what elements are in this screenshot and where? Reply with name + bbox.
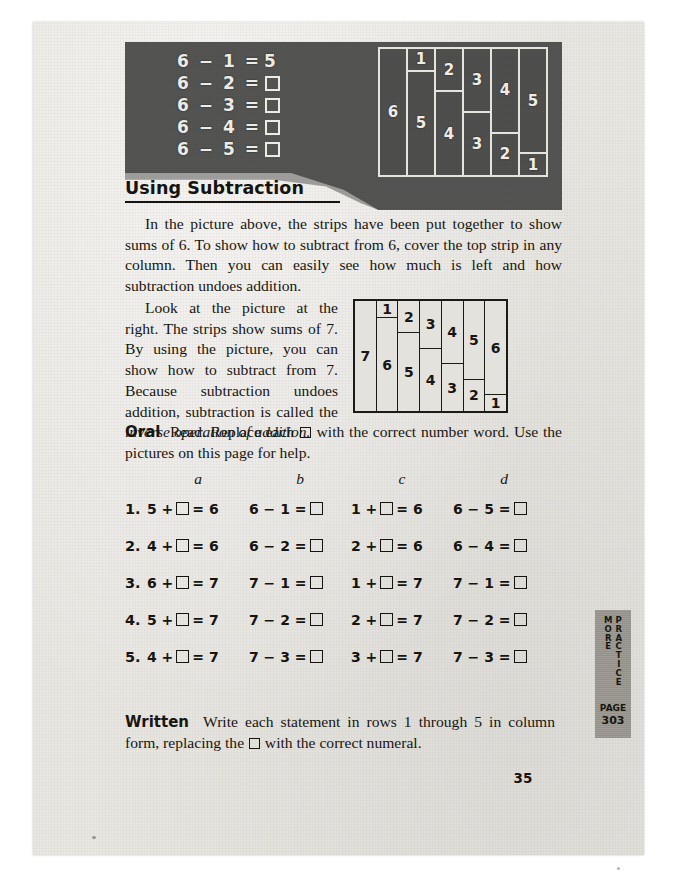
exercise-item: 7 − 1 = (453, 575, 555, 591)
answer-box-icon[interactable] (310, 502, 323, 515)
exercise-column-headers: abcd (125, 470, 557, 490)
answer-box-icon[interactable] (380, 650, 393, 663)
answer-box-icon[interactable] (310, 539, 323, 552)
oral-text-before: Read. Replace each (170, 423, 299, 440)
strip-cell: 2 (464, 380, 485, 411)
strip-cell: 1 (520, 154, 546, 175)
exercise-expression-left: 2 + (351, 612, 377, 628)
written-text-after: with the correct numeral. (261, 734, 422, 751)
chalkboard-equation: 6 − 1 =5 (177, 50, 327, 72)
strip-cell: 5 (398, 333, 419, 411)
answer-box-icon[interactable] (176, 650, 189, 663)
chalkboard-equation: 6 − 4 = (177, 116, 327, 138)
answer-box-icon[interactable] (310, 613, 323, 626)
exercise-expression-left: 5 + (147, 612, 173, 628)
answer-box-icon[interactable] (514, 576, 527, 589)
side-tab-page-label: PAGE (600, 703, 626, 713)
strip-cell: 3 (442, 364, 463, 411)
empty-square-icon (265, 120, 280, 135)
exercise-item: 7 − 2 = (453, 612, 555, 628)
written-label: Written (125, 713, 189, 731)
answer-box-icon[interactable] (176, 502, 189, 515)
chalkboard-equation: 6 − 5 = (177, 138, 327, 160)
exercise-row-number: 5. (125, 649, 147, 665)
strip-column: 15 (408, 49, 436, 175)
answer-box-icon[interactable] (310, 650, 323, 663)
strip-cell: 1 (377, 301, 398, 318)
exercise-expression-left: 6 − 4 = (453, 538, 511, 554)
exercise-item: 6 += 7 (147, 575, 249, 591)
strip-cell: 6 (377, 318, 398, 411)
exercise-item: 4 += 7 (147, 649, 249, 665)
strip-column: 24 (436, 49, 464, 175)
strip-cell: 2 (492, 134, 518, 175)
empty-square-icon (265, 76, 280, 91)
answer-box-icon[interactable] (176, 576, 189, 589)
page-content: 6 − 1 =56 − 2 =6 − 3 =6 − 4 =6 − 5 = 615… (33, 22, 644, 855)
exercise-grid: abcd 1.5 += 66 − 1 =1 += 66 − 5 =2.4 += … (125, 470, 557, 675)
exercise-expression-left: 6 − 5 = (453, 501, 511, 517)
exercise-column-header: c (351, 470, 453, 490)
answer-box-icon[interactable] (380, 576, 393, 589)
strip-cell: 2 (398, 301, 419, 333)
side-tab-word-more: MORE (604, 616, 612, 702)
answer-box-icon[interactable] (514, 613, 527, 626)
strip-cell: 3 (464, 113, 490, 175)
strip-cell: 4 (436, 92, 462, 175)
exercise-item: 5 += 6 (147, 501, 249, 517)
strip-cell: 7 (355, 301, 376, 411)
exercise-expression-left: 1 + (351, 501, 377, 517)
exercise-expression-left: 5 + (147, 501, 173, 517)
answer-box-icon[interactable] (514, 539, 527, 552)
exercise-expression-left: 4 + (147, 538, 173, 554)
exercise-item: 6 − 4 = (453, 538, 555, 554)
strip-cell: 5 (520, 49, 546, 154)
strip-cell: 3 (420, 301, 441, 349)
exercise-row: 2.4 += 66 − 2 =2 += 66 − 4 = (125, 527, 557, 564)
exercise-item: 4 += 6 (147, 538, 249, 554)
paragraph-sums-of-7-text: Look at the picture at the right. The st… (125, 299, 338, 420)
exercise-row: 1.5 += 66 − 1 =1 += 66 − 5 = (125, 490, 557, 527)
exercise-item: 5 += 7 (147, 612, 249, 628)
chalkboard-equation-list: 6 − 1 =56 − 2 =6 − 3 =6 − 4 =6 − 5 = (177, 50, 327, 160)
answer-box-icon[interactable] (380, 539, 393, 552)
exercise-expression-left: 7 − 2 = (249, 612, 307, 628)
exercise-expression-right: = 7 (192, 575, 218, 591)
strip-cell: 2 (436, 49, 462, 92)
answer-box-icon[interactable] (380, 502, 393, 515)
chalk-equation-expression: 6 − 1 = (177, 51, 261, 71)
chalkboard-equation: 6 − 3 = (177, 94, 327, 116)
answer-box-icon[interactable] (380, 613, 393, 626)
oral-instruction: Oral Read. Replace each with the correct… (125, 422, 562, 464)
answer-box-icon[interactable] (176, 539, 189, 552)
scan-speck (92, 836, 96, 839)
answer-box-icon[interactable] (310, 576, 323, 589)
exercise-expression-right: = 7 (192, 649, 218, 665)
exercise-row: 5.4 += 77 − 3 =3 += 77 − 3 = (125, 638, 557, 675)
empty-square-icon (249, 738, 260, 749)
exercise-expression-left: 7 − 1 = (249, 575, 307, 591)
strip-cell: 5 (408, 72, 434, 175)
paragraph-intro-text: In the picture above, the strips have be… (125, 215, 562, 294)
exercise-item: 2 += 7 (351, 612, 453, 628)
strip-column: 52 (464, 301, 486, 411)
strip-cell: 6 (485, 301, 506, 395)
exercise-column-header: a (147, 470, 249, 490)
strip-column: 25 (398, 301, 420, 411)
exercise-item: 3 += 7 (351, 649, 453, 665)
exercise-item: 6 − 2 = (249, 538, 351, 554)
side-tab-vertical-words: MOREPRACTICE (604, 610, 622, 702)
exercise-column-header: d (453, 470, 555, 490)
strip-column: 51 (520, 49, 546, 175)
oral-label: Oral (125, 423, 160, 441)
strip-column: 61 (485, 301, 506, 411)
exercise-expression-left: 1 + (351, 575, 377, 591)
exercise-expression-left: 3 + (351, 649, 377, 665)
answer-box-icon[interactable] (176, 613, 189, 626)
exercise-expression-right: = 7 (396, 649, 422, 665)
answer-box-icon[interactable] (514, 502, 527, 515)
scan-speck (617, 867, 620, 870)
side-tab-letter: E (605, 642, 611, 651)
exercise-item: 6 − 1 = (249, 501, 351, 517)
answer-box-icon[interactable] (514, 650, 527, 663)
